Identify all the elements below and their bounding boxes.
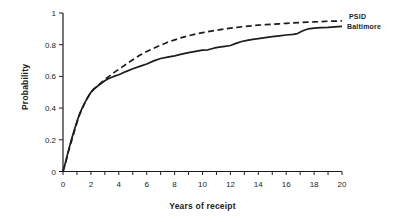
x-tick-label: 0: [61, 180, 66, 189]
x-tick-label: 16: [282, 180, 291, 189]
survival-curve-figure: 0246810121416182000.20.40.60.81 Probabil…: [0, 0, 396, 222]
x-tick-label: 2: [89, 180, 94, 189]
y-tick-label: 0.8: [45, 41, 57, 50]
y-tick-label: 0.2: [45, 136, 57, 145]
x-tick-label: 8: [172, 180, 177, 189]
y-tick-label: 0: [52, 168, 57, 177]
y-tick-label: 0.6: [45, 72, 57, 81]
x-tick-label: 10: [198, 180, 207, 189]
x-tick-label: 14: [254, 180, 263, 189]
series-line-baltimore: [63, 26, 342, 171]
y-tick-label: 1: [52, 9, 57, 18]
x-tick-label: 4: [117, 180, 122, 189]
x-axis-title: Years of receipt: [63, 201, 342, 211]
series-label-baltimore: Baltimore: [347, 23, 381, 30]
x-tick-label: 20: [338, 180, 347, 189]
y-tick-label: 0.4: [45, 104, 57, 113]
x-tick-label: 18: [310, 180, 319, 189]
series-label-psid: PSID: [349, 13, 366, 20]
series-line-psid: [63, 21, 342, 172]
x-tick-label: 12: [226, 180, 235, 189]
plot-area: 0246810121416182000.20.40.60.81: [0, 0, 396, 222]
x-tick-label: 6: [144, 180, 149, 189]
